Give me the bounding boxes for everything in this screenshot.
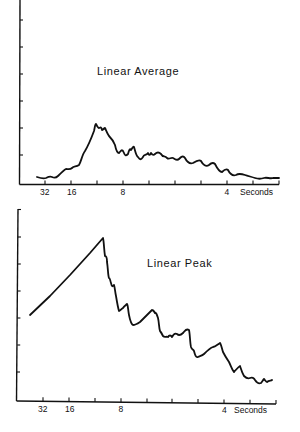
x-tick-label-8: 8 [121, 187, 126, 197]
chart-linear-average: 32 16 8 4 Seconds Linear Average [20, 0, 280, 197]
x-tick-label-32: 32 [40, 187, 50, 197]
figure: 32 16 8 4 Seconds Linear Average [0, 0, 300, 432]
x-axis-unit-label: Seconds [240, 187, 273, 197]
y-axis [20, 0, 21, 185]
x-tick-label-32: 32 [38, 404, 48, 414]
x-tick-label-16: 16 [67, 187, 77, 197]
x-axis [17, 401, 277, 404]
chart-linear-peak: 32 16 8 4 Seconds Linear Peak [17, 209, 277, 415]
x-tick-label-4: 4 [225, 187, 230, 197]
linear-average-curve [37, 124, 279, 179]
chart-title: Linear Average [97, 65, 179, 77]
x-tick-label-16: 16 [65, 404, 75, 414]
x-tick-label-8: 8 [119, 404, 124, 414]
x-axis-unit-label: Seconds [234, 405, 267, 415]
chart-title: Linear Peak [147, 257, 212, 269]
x-tick-label-4: 4 [222, 405, 227, 415]
